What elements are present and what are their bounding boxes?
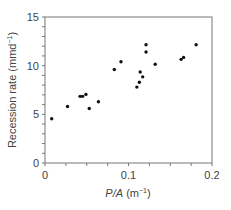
x-axis-label-italic: P/A: [105, 187, 123, 199]
data-point: [66, 105, 69, 108]
x-tick-label: 0.1: [121, 169, 136, 181]
x-axis-label-close: ): [147, 187, 151, 199]
y-axis-label-sup: −1: [6, 35, 13, 43]
data-point: [182, 56, 185, 59]
plot-frame: [45, 17, 212, 163]
plot-border: [45, 17, 212, 163]
x-axis-label: P/A (m−1): [105, 187, 150, 199]
data-point: [97, 100, 100, 103]
x-tick-label: 0.2: [204, 169, 219, 181]
data-point: [154, 63, 157, 66]
data-point: [50, 117, 53, 120]
data-point: [88, 107, 91, 110]
data-points: [50, 43, 198, 120]
data-point: [194, 43, 197, 46]
data-point: [144, 50, 147, 53]
data-point: [135, 85, 138, 88]
data-point: [138, 81, 141, 84]
y-axis-label: Recession rate (mmd−1): [6, 32, 18, 148]
x-tick-label: 0: [42, 169, 48, 181]
scatter-chart: 00.10.2051015 P/A (m−1) Recession rate (…: [0, 0, 231, 210]
axis-ticks: [42, 17, 212, 166]
data-point: [138, 70, 141, 73]
y-tick-label: 10: [27, 60, 39, 72]
data-point: [81, 95, 84, 98]
y-tick-label: 5: [33, 108, 39, 120]
data-point: [84, 93, 87, 96]
data-point: [141, 75, 144, 78]
y-axis-label-close: ): [6, 32, 18, 36]
y-axis-label-main: Recession rate (mmd: [6, 44, 18, 149]
y-tick-label: 15: [27, 11, 39, 23]
y-tick-label: 0: [33, 157, 39, 169]
data-point: [113, 68, 116, 71]
x-axis-label-sup: −1: [139, 187, 147, 194]
data-point: [119, 60, 122, 63]
axis-tick-labels: 00.10.2051015: [27, 11, 220, 181]
data-point: [144, 43, 147, 46]
x-axis-label-unit: (m: [123, 187, 139, 199]
